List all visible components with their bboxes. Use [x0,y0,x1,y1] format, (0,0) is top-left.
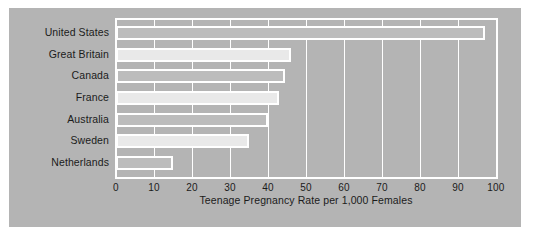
axis-right-line [496,19,498,179]
bar [116,91,279,105]
chart-panel: United StatesGreat BritainCanadaFranceAu… [9,8,521,227]
x-tick-label: 90 [452,182,464,193]
category-label: Great Britain [49,48,109,60]
x-axis-title: Teenage Pregnancy Rate per 1,000 Females [116,194,496,206]
gridline [382,19,383,177]
x-tick-label: 0 [113,182,119,193]
category-label: United States [45,26,109,38]
category-label: Sweden [70,134,109,146]
axis-x-line [115,177,498,179]
category-label: Netherlands [51,156,109,168]
x-tick-label: 20 [186,182,198,193]
x-tick-label: 40 [262,182,274,193]
x-tick-label: 10 [148,182,160,193]
x-tick-label: 80 [414,182,426,193]
category-label: Canada [72,69,109,81]
gridline [344,19,345,177]
gridline [306,19,307,177]
plot-area: 0102030405060708090100 [116,22,496,174]
bar [116,113,268,127]
gridline [458,19,459,177]
x-tick-label: 100 [487,182,504,193]
category-label: France [76,91,109,103]
figure: United StatesGreat BritainCanadaFranceAu… [0,0,540,244]
bar [116,134,249,148]
bar [116,26,485,40]
bar [116,156,173,170]
category-label: Australia [67,113,109,125]
x-tick-label: 30 [224,182,236,193]
x-tick-label: 50 [300,182,312,193]
category-axis-labels: United StatesGreat BritainCanadaFranceAu… [9,22,109,174]
bar [116,69,285,83]
bar [116,48,291,62]
x-tick-label: 70 [376,182,388,193]
gridline [420,19,421,177]
x-tick-label: 60 [338,182,350,193]
